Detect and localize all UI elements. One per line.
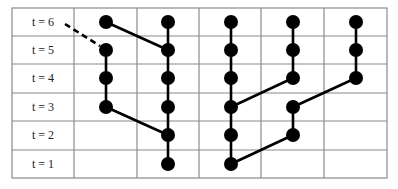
row-label-t6: t = 6 — [32, 15, 54, 29]
row-label-t4: t = 4 — [32, 71, 54, 85]
node-circle — [161, 15, 175, 29]
node-circle — [99, 15, 113, 29]
row-label-t1: t = 1 — [32, 157, 54, 171]
node-circle — [99, 43, 113, 57]
node-circle — [161, 71, 175, 85]
node-circle — [224, 128, 238, 142]
node-circle — [349, 43, 363, 57]
node-circle — [286, 71, 300, 85]
node-circle — [224, 100, 238, 114]
node-circle — [286, 43, 300, 57]
node-circle — [99, 100, 113, 114]
node-circle — [161, 128, 175, 142]
time-step-lineage-diagram: t = 6t = 5t = 4t = 3t = 2t = 1 — [0, 0, 398, 189]
row-label-t2: t = 2 — [32, 128, 54, 142]
row-label-t5: t = 5 — [32, 43, 54, 57]
node-circle — [161, 100, 175, 114]
node-circle — [99, 71, 113, 85]
node-circle — [224, 15, 238, 29]
node-circle — [286, 128, 300, 142]
node-circle — [224, 157, 238, 171]
node-circle — [349, 71, 363, 85]
node-circle — [349, 15, 363, 29]
node-circle — [286, 15, 300, 29]
node-circle — [224, 71, 238, 85]
row-label-t3: t = 3 — [32, 100, 54, 114]
dashed-incoming-edge — [65, 24, 100, 46]
node-circle — [161, 157, 175, 171]
node-circle — [224, 43, 238, 57]
node-circle — [161, 43, 175, 57]
node-circle — [286, 100, 300, 114]
